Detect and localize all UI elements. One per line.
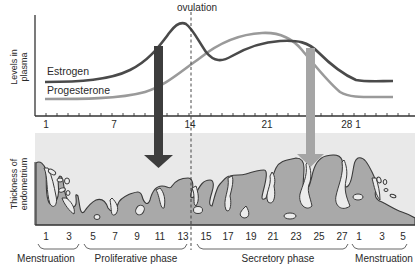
phase-label-proliferative: Proliferative phase	[95, 253, 178, 264]
day-label: 1	[356, 231, 362, 242]
day-label: 17	[222, 231, 234, 242]
day-label: 9	[134, 231, 140, 242]
bottom-y-axis-label-line1: Thickness of	[9, 158, 19, 209]
progesterone-label: Progesterone	[47, 84, 110, 96]
estrogen-label: Estrogen	[47, 65, 89, 77]
x-tick-label: 28 1	[341, 119, 361, 130]
x-tick-label: 1	[43, 119, 49, 130]
day-label: 5	[400, 231, 406, 242]
phase-label-menstruation-next: Menstruation	[355, 253, 413, 264]
day-label: 23	[290, 231, 302, 242]
bracket-proliferative	[84, 244, 187, 249]
x-tick-label: 21	[261, 119, 273, 130]
day-labels: 1 3 5 7 9 11 13 15 17 19 21 23 25 27 1 3…	[43, 231, 406, 242]
top-y-axis-label-line1: Levels in	[9, 49, 19, 85]
bracket-menstruation-1	[38, 244, 79, 249]
phase-label-secretory: Secretory phase	[242, 253, 315, 264]
ovulation-label: ovulation	[177, 2, 217, 13]
day-label: 7	[112, 231, 118, 242]
bracket-secretory	[197, 244, 348, 249]
day-label: 1	[43, 231, 49, 242]
day-label: 11	[155, 231, 166, 242]
day-label: 21	[267, 231, 279, 242]
menstrual-cycle-diagram: ovulation Estrogen Progesterone Levels i…	[0, 0, 415, 268]
day-label: 3	[66, 231, 72, 242]
day-label: 3	[379, 231, 385, 242]
day-label: 27	[336, 231, 348, 242]
bottom-y-axis-label-line2: endometrium	[19, 158, 29, 211]
bracket-menstruation-2	[352, 244, 407, 249]
x-tick-label: 14	[184, 119, 196, 130]
day-label: 13	[177, 231, 189, 242]
top-y-axis-label-line2: plasma	[19, 52, 29, 81]
day-label: 19	[245, 231, 257, 242]
phase-brackets	[38, 244, 407, 249]
day-label: 15	[200, 231, 212, 242]
phase-label-menstruation: Menstruation	[17, 253, 75, 264]
x-tick-label: 7	[111, 119, 117, 130]
estrogen-curve	[45, 23, 393, 82]
day-label: 25	[313, 231, 325, 242]
day-label: 5	[90, 231, 96, 242]
